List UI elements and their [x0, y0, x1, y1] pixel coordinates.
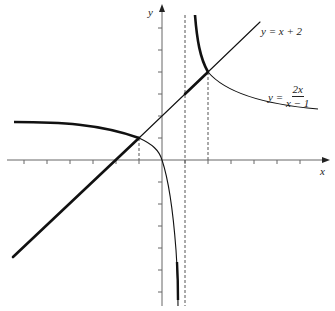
left-branch-bottom-thick [177, 262, 178, 300]
x-axis-label: x [320, 166, 325, 177]
hyperbola-label-fraction: 2x x − 1 [286, 84, 309, 109]
line-equation-label: y = x + 2 [261, 26, 302, 37]
left-branch-thin [139, 138, 178, 306]
hyperbola-label-lhs: y = [268, 91, 283, 103]
y-axis-label: y [148, 7, 153, 18]
y-axis-arrow-icon [159, 4, 165, 12]
hyperbola-equation-label: y = 2x x − 1 [268, 84, 309, 109]
left-branch-thick [14, 122, 139, 138]
graph [0, 0, 335, 311]
hyperbola-label-denominator: x − 1 [286, 97, 309, 109]
x-axis-arrow-icon [322, 157, 330, 163]
right-branch-thick [195, 15, 208, 72]
axes [7, 8, 326, 306]
line-y-eq-x-plus-2 [13, 22, 260, 257]
hyperbola-label-numerator: 2x [292, 84, 304, 97]
